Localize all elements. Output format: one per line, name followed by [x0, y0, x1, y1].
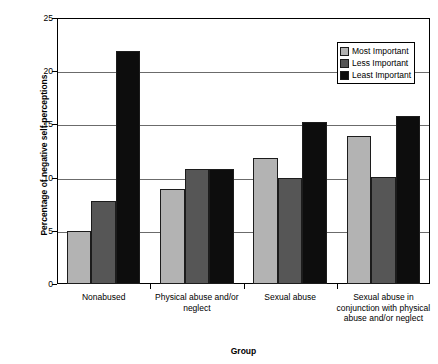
y-tick-label: 15: [23, 120, 53, 129]
bar: [116, 51, 141, 284]
legend-item: Least Important: [340, 69, 411, 81]
legend-swatch-icon: [340, 47, 349, 56]
y-axis-title: Percentage of negative self-perceptions: [39, 25, 49, 285]
bar: [160, 189, 185, 284]
bar: [209, 169, 234, 284]
legend-item: Most Important: [340, 45, 411, 57]
y-tick-label: 0: [23, 280, 53, 289]
bar: [67, 231, 92, 284]
bar: [253, 158, 278, 284]
y-tick-mark: [52, 284, 57, 285]
legend-swatch-icon: [340, 71, 349, 80]
x-tick-mark: [337, 284, 338, 289]
bar-chart: Percentage of negative self-perceptions …: [0, 0, 438, 364]
bar: [302, 122, 327, 284]
bar: [347, 136, 372, 284]
bar: [91, 201, 116, 284]
y-tick-label: 5: [23, 227, 53, 236]
legend-label: Most Important: [352, 47, 409, 56]
bar: [396, 116, 421, 284]
x-tick-label: Sexual abuse: [247, 292, 333, 303]
bar: [185, 169, 210, 284]
bar: [371, 177, 396, 284]
chart-legend: Most ImportantLess ImportantLeast Import…: [337, 42, 415, 84]
legend-label: Less Important: [352, 59, 408, 68]
x-axis-title: Group: [57, 346, 430, 356]
y-tick-label: 10: [23, 174, 53, 183]
legend-item: Less Important: [340, 57, 411, 69]
legend-swatch-icon: [340, 59, 349, 68]
x-tick-mark: [244, 284, 245, 289]
legend-label: Least Important: [352, 71, 411, 80]
x-tick-label: Physical abuse and/or neglect: [149, 292, 245, 313]
y-tick-label: 25: [23, 14, 53, 23]
x-tick-label: Sexual abuse in conjunction with physica…: [335, 292, 431, 324]
x-tick-mark: [150, 284, 151, 289]
y-tick-label: 20: [23, 67, 53, 76]
bar: [278, 178, 303, 284]
x-tick-label: Nonabused: [61, 292, 147, 303]
